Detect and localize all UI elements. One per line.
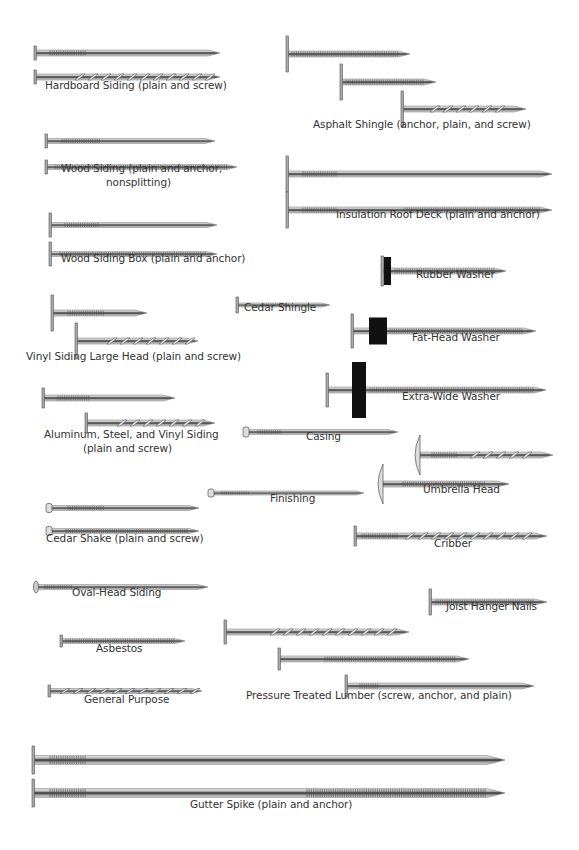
label-insulation-roof-deck: Insulation Roof Deck (plain and anchor) (336, 208, 540, 221)
nail-insulation-plain (286, 156, 552, 192)
label-fat-head-washer: Fat-Head Washer (412, 331, 500, 344)
nail-head-icon (34, 46, 37, 60)
label-finishing: Finishing (270, 492, 315, 505)
nail-head-icon (51, 295, 54, 331)
label-cedar-shake: Cedar Shake (plain and screw) (46, 532, 204, 545)
nail-head-icon (278, 648, 281, 670)
nail-asphalt-plain (340, 64, 436, 100)
nail-pressure-anchor (278, 648, 469, 670)
nail-head-icon (49, 213, 52, 237)
nail-head-icon (32, 746, 35, 774)
nail-aluminum-plain (42, 388, 175, 408)
label-wood-siding: Wood Siding (plain and anchor, (61, 162, 222, 175)
nail-cedar-shake-plain (46, 504, 199, 513)
label-wood-siding-2: nonsplitting) (106, 176, 171, 189)
nail-head-icon (354, 526, 357, 546)
label-oval-head-siding: Oval-Head Siding (72, 586, 161, 599)
nail-umbrella-screw (415, 435, 553, 475)
nail-gutter-spike-plain (32, 746, 505, 774)
nail-pressure-screw (224, 620, 409, 644)
nail-asphalt-anchor (286, 36, 410, 72)
label-aluminum-steel-vinyl-2: (plain and screw) (83, 442, 172, 455)
nail-head-icon (224, 620, 227, 644)
umbrella-head-icon (378, 464, 383, 504)
nail-head-icon (45, 160, 48, 174)
nail-head-icon (48, 685, 51, 697)
label-casing: Casing (306, 430, 341, 443)
nail-head-icon (49, 242, 52, 266)
label-rubber-washer: Rubber Washer (416, 268, 495, 281)
nail-head-icon (45, 134, 48, 148)
label-cribber: Cribber (434, 537, 472, 550)
washer-icon (369, 318, 387, 345)
nail-head-icon (326, 373, 329, 407)
label-general-purpose: General Purpose (84, 693, 169, 706)
label-wood-siding-box: Wood Siding Box (plain and anchor) (61, 252, 245, 265)
label-aluminum-steel-vinyl: Aluminum, Steel, and Vinyl Siding (44, 428, 219, 441)
nail-head-icon (286, 192, 289, 228)
nail-wood-siding-box-plain (49, 213, 217, 237)
label-gutter-spike: Gutter Spike (plain and anchor) (190, 798, 352, 811)
umbrella-head-icon (415, 435, 420, 475)
nail-hardboard-plain (34, 46, 220, 60)
nail-head-icon (208, 489, 214, 497)
washer-icon (384, 257, 391, 285)
nail-head-icon (34, 581, 39, 593)
nail-head-icon (46, 504, 52, 513)
nail-head-icon (351, 314, 354, 348)
nail-head-icon (429, 589, 432, 615)
nail-head-icon (34, 70, 37, 84)
nail-head-icon (60, 635, 63, 647)
label-umbrella-head: Umbrella Head (423, 483, 500, 496)
nail-wood-siding-plain (45, 134, 215, 148)
label-joist-hanger-nails: Joist Hanger Nails (446, 600, 537, 613)
nail-head-icon (286, 36, 289, 72)
nail-head-icon (286, 156, 289, 192)
nail-head-icon (340, 64, 343, 100)
nail-head-icon (32, 779, 35, 807)
label-extra-wide-washer: Extra-Wide Washer (402, 390, 500, 403)
label-asphalt-shingle: Asphalt Shingle (anchor, plain, and scre… (313, 118, 531, 131)
nail-types-diagram: Hardboard Siding (plain and screw)Asphal… (0, 0, 579, 850)
label-pressure-treated-lumber: Pressure Treated Lumber (screw, anchor, … (246, 689, 512, 702)
nail-head-icon (381, 256, 384, 286)
label-hardboard-siding: Hardboard Siding (plain and screw) (45, 79, 227, 92)
washer-icon (352, 362, 366, 418)
nail-vinyl-large-plain (51, 295, 147, 331)
label-vinyl-siding-large-head: Vinyl Siding Large Head (plain and screw… (26, 350, 241, 363)
nail-head-icon (42, 388, 45, 408)
nail-head-icon (236, 297, 239, 313)
label-asbestos: Asbestos (96, 642, 142, 655)
label-cedar-shingle: Cedar Shingle (244, 301, 316, 314)
nail-head-icon (243, 427, 249, 437)
